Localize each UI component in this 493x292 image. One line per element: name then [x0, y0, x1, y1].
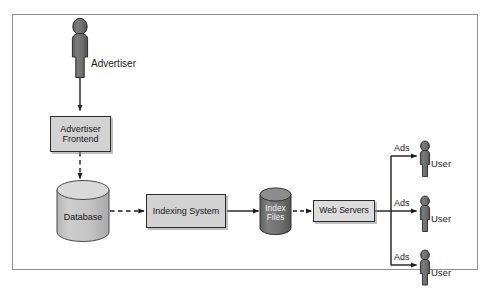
person-icon-user-1 [420, 141, 429, 177]
actor-label-user-3: User [431, 267, 451, 278]
actor-label-advertiser: Advertiser [91, 58, 136, 69]
node-advertiser-frontend-line2: Frontend [58, 134, 103, 144]
edge-webservers-branch-bus [375, 156, 391, 265]
cylinder-database [57, 181, 109, 242]
actor-label-user-2: User [431, 213, 451, 224]
edge-label-ads-3: Ads [394, 252, 410, 262]
node-web-servers[interactable]: Web Servers [313, 200, 375, 222]
node-index-files-label-line2: Files [260, 213, 291, 222]
edge-label-ads-1: Ads [394, 143, 410, 153]
node-advertiser-frontend[interactable]: Advertiser Frontend [50, 116, 111, 152]
person-icon-user-2 [420, 196, 429, 232]
node-advertiser-frontend-line1: Advertiser [58, 124, 103, 134]
node-web-servers-label: Web Servers [317, 206, 371, 216]
node-indexing-system[interactable]: Indexing System [146, 194, 226, 228]
node-indexing-system-label: Indexing System [151, 206, 222, 216]
actor-label-user-1: User [431, 158, 451, 169]
person-icon-user-3 [420, 250, 429, 285]
person-icon-advertiser [72, 18, 87, 77]
node-database-label: Database [57, 213, 109, 223]
edge-label-ads-2: Ads [394, 198, 410, 208]
diagram-canvas: Advertiser User User User Advertiser Fro… [0, 0, 493, 292]
